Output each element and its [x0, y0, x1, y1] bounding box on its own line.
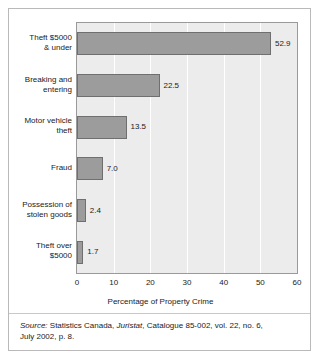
x-tick-label: 60 — [293, 278, 302, 288]
bar-value-label: 13.5 — [131, 123, 147, 131]
figure-frame: Theft $5000& under Breaking andentering … — [8, 8, 311, 351]
bar — [77, 241, 83, 264]
category-label-line: theft — [0, 126, 72, 136]
bar-row: 13.5 — [77, 116, 297, 139]
source-text-part1: Statistics Canada, — [48, 321, 117, 330]
bar — [77, 32, 271, 55]
category-label-4: Possession ofstolen goods — [0, 200, 72, 220]
category-label-2: Motor vehicletheft — [0, 116, 72, 136]
bar-value-label: 22.5 — [164, 82, 180, 90]
bar — [77, 116, 127, 139]
category-label-line: stolen goods — [0, 210, 72, 220]
bar-row: 2.4 — [77, 199, 297, 222]
bar-row: 52.9 — [77, 32, 297, 55]
bar-chart: Theft $5000& under Breaking andentering … — [9, 9, 312, 309]
bars-layer: 52.9 22.5 13.5 7.0 2.4 — [77, 23, 297, 273]
bar-value-label: 7.0 — [107, 165, 118, 173]
bar — [77, 74, 160, 97]
bar-value-label: 52.9 — [275, 40, 291, 48]
category-label-3: Fraud — [0, 163, 72, 173]
source-publication: Juristat — [117, 321, 143, 330]
category-label-line: Breaking and — [0, 75, 72, 85]
source-text-part2: , Catalogue 85-002, vol. 22, no. 6, — [142, 321, 263, 330]
category-label-0: Theft $5000& under — [0, 33, 72, 53]
x-tick-label: 0 — [75, 278, 79, 288]
source-divider — [9, 313, 310, 314]
bar-row: 1.7 — [77, 241, 297, 264]
category-label-line: Fraud — [0, 163, 72, 173]
bar — [77, 199, 86, 222]
source-text-line2: July 2002, p. 8. — [20, 332, 74, 341]
category-label-line: $5000 — [0, 251, 72, 261]
source-label: Source: — [20, 321, 48, 330]
bar-row: 7.0 — [77, 157, 297, 180]
category-label-5: Theft over$5000 — [0, 241, 72, 261]
category-label-1: Breaking andentering — [0, 75, 72, 95]
x-tick-label: 20 — [146, 278, 155, 288]
bar-row: 22.5 — [77, 74, 297, 97]
x-tick-label: 50 — [256, 278, 265, 288]
bar — [77, 157, 103, 180]
x-tick-label: 10 — [109, 278, 118, 288]
category-label-line: & under — [0, 43, 72, 53]
x-axis-title: Percentage of Property Crime — [9, 297, 312, 306]
plot-area: 52.9 22.5 13.5 7.0 2.4 — [76, 22, 298, 274]
category-label-line: Motor vehicle — [0, 116, 72, 126]
bar-value-label: 1.7 — [87, 248, 98, 256]
x-tick-label: 40 — [219, 278, 228, 288]
category-label-line: Theft $5000 — [0, 33, 72, 43]
bar-value-label: 2.4 — [90, 207, 101, 215]
source-note: Source: Statistics Canada, Juristat, Cat… — [20, 320, 299, 342]
category-label-line: Theft over — [0, 241, 72, 251]
category-label-line: Possession of — [0, 200, 72, 210]
category-label-line: entering — [0, 85, 72, 95]
x-tick-label: 30 — [183, 278, 192, 288]
